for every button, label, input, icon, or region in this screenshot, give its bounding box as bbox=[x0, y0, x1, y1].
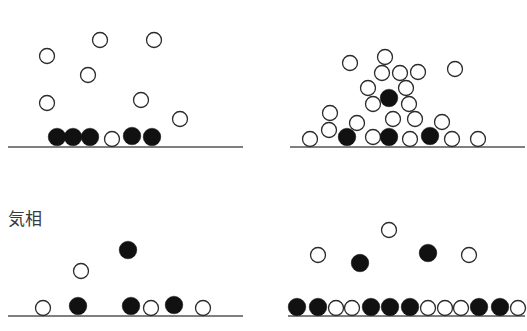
open-particle bbox=[144, 301, 159, 316]
open-particle bbox=[36, 301, 51, 316]
open-particle bbox=[402, 97, 417, 112]
open-particle bbox=[361, 81, 376, 96]
open-particle bbox=[311, 248, 326, 263]
panel-top-right bbox=[290, 50, 525, 148]
open-particle bbox=[411, 65, 426, 80]
open-particle bbox=[403, 132, 418, 147]
filled-particle bbox=[48, 128, 66, 146]
filled-particle bbox=[309, 298, 327, 316]
filled-particle bbox=[123, 127, 141, 145]
open-particle bbox=[386, 112, 401, 127]
open-particle bbox=[134, 93, 149, 108]
panel-bottom-left bbox=[8, 241, 243, 316]
open-particle bbox=[378, 50, 393, 65]
open-particle bbox=[105, 132, 120, 147]
open-particle bbox=[454, 301, 469, 316]
panel-top-left bbox=[8, 33, 243, 148]
filled-particle bbox=[122, 297, 140, 315]
open-particle bbox=[322, 123, 337, 138]
filled-particle bbox=[491, 298, 509, 316]
filled-particle bbox=[419, 244, 437, 262]
open-particle bbox=[329, 301, 344, 316]
open-particle bbox=[196, 301, 211, 316]
filled-particle bbox=[380, 128, 398, 146]
open-particle bbox=[393, 66, 408, 81]
filled-particle bbox=[165, 296, 183, 314]
open-particle bbox=[375, 66, 390, 81]
open-particle bbox=[408, 112, 423, 127]
open-particle bbox=[366, 130, 381, 145]
open-particle bbox=[93, 33, 108, 48]
open-particle bbox=[471, 132, 486, 147]
filled-particle bbox=[338, 128, 356, 146]
filled-particle bbox=[421, 127, 439, 145]
open-particle bbox=[438, 301, 453, 316]
open-particle bbox=[435, 115, 450, 130]
open-particle bbox=[303, 132, 318, 147]
open-particle bbox=[343, 56, 358, 71]
filled-particle bbox=[470, 298, 488, 316]
filled-particle bbox=[143, 128, 161, 146]
open-particle bbox=[40, 49, 55, 64]
open-particle bbox=[350, 116, 365, 131]
open-particle bbox=[147, 33, 162, 48]
open-particle bbox=[399, 81, 414, 96]
open-particle bbox=[366, 97, 381, 112]
diagram-canvas bbox=[0, 0, 527, 331]
panel-bottom-right bbox=[288, 223, 526, 317]
particle-diagram: 気相 bbox=[0, 0, 527, 331]
filled-particle bbox=[380, 89, 398, 107]
open-particle bbox=[511, 301, 526, 316]
filled-particle bbox=[69, 297, 87, 315]
filled-particle bbox=[81, 128, 99, 146]
open-particle bbox=[323, 106, 338, 121]
filled-particle bbox=[381, 298, 399, 316]
open-particle bbox=[81, 68, 96, 83]
filled-particle bbox=[362, 298, 380, 316]
open-particle bbox=[40, 96, 55, 111]
filled-particle bbox=[351, 254, 369, 272]
open-particle bbox=[448, 62, 463, 77]
open-particle bbox=[345, 301, 360, 316]
open-particle bbox=[74, 264, 89, 279]
filled-particle bbox=[64, 128, 82, 146]
open-particle bbox=[421, 301, 436, 316]
filled-particle bbox=[401, 298, 419, 316]
filled-particle bbox=[288, 298, 306, 316]
open-particle bbox=[382, 223, 397, 238]
open-particle bbox=[173, 112, 188, 127]
filled-particle bbox=[119, 241, 137, 259]
open-particle bbox=[462, 248, 477, 263]
open-particle bbox=[445, 132, 460, 147]
